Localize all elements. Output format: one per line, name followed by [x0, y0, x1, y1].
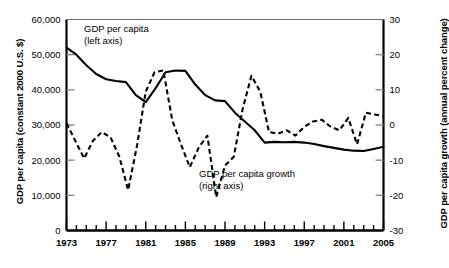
annotation-gdp-growth: GDP per capita growth (right axis): [199, 168, 295, 191]
x-axis-ticks: [67, 222, 384, 231]
x-tick-label: 1985: [175, 237, 197, 248]
right-tick-label: 20: [390, 49, 401, 60]
x-axis-tick-labels: 197319771981198519891993199720012005: [56, 237, 395, 248]
left-axis-tick-labels: 010,00020,00030,00040,00050,00060,000: [31, 14, 60, 236]
left-tick-label: 0: [55, 225, 60, 236]
right-tick-label: 30: [390, 14, 401, 25]
left-tick-label: 20,000: [31, 155, 60, 166]
annotation-gdp-line2: (left axis): [84, 35, 149, 47]
x-tick-label: 2005: [373, 237, 395, 248]
right-axis-title: GDP per capita growth (annual percent ch…: [438, 19, 449, 229]
series-gdp-per-capita-line: [67, 48, 384, 151]
annotation-growth-line1: GDP per capita growth: [199, 168, 295, 180]
annotation-growth-line2: (right axis): [199, 180, 295, 192]
x-tick-label: 1973: [56, 237, 77, 248]
x-tick-label: 2001: [333, 237, 355, 248]
right-tick-label: -20: [390, 190, 404, 201]
x-tick-label: 1993: [254, 237, 275, 248]
axis-lines: [67, 20, 384, 231]
left-tick-label: 10,000: [31, 190, 60, 201]
x-tick-label: 1977: [96, 237, 117, 248]
right-tick-label: -30: [390, 225, 404, 236]
left-tick-label: 60,000: [31, 14, 60, 25]
left-axis-title: GDP per capita (constant 2000 U.S. $): [14, 17, 25, 227]
x-tick-label: 1989: [214, 237, 235, 248]
right-tick-label: 10: [390, 84, 401, 95]
right-tick-label: -10: [390, 155, 404, 166]
left-tick-label: 30,000: [31, 119, 60, 130]
left-tick-label: 50,000: [31, 49, 60, 60]
right-axis-ticks: [376, 55, 384, 196]
annotation-gdp-line1: GDP per capita: [84, 23, 149, 35]
right-tick-label: 0: [390, 119, 395, 130]
x-tick-label: 1981: [135, 237, 157, 248]
right-axis-tick-labels: -30-20-100102030: [390, 14, 404, 236]
left-tick-label: 40,000: [31, 84, 60, 95]
x-tick-label: 1997: [294, 237, 315, 248]
annotation-gdp-per-capita: GDP per capita (left axis): [84, 23, 149, 46]
